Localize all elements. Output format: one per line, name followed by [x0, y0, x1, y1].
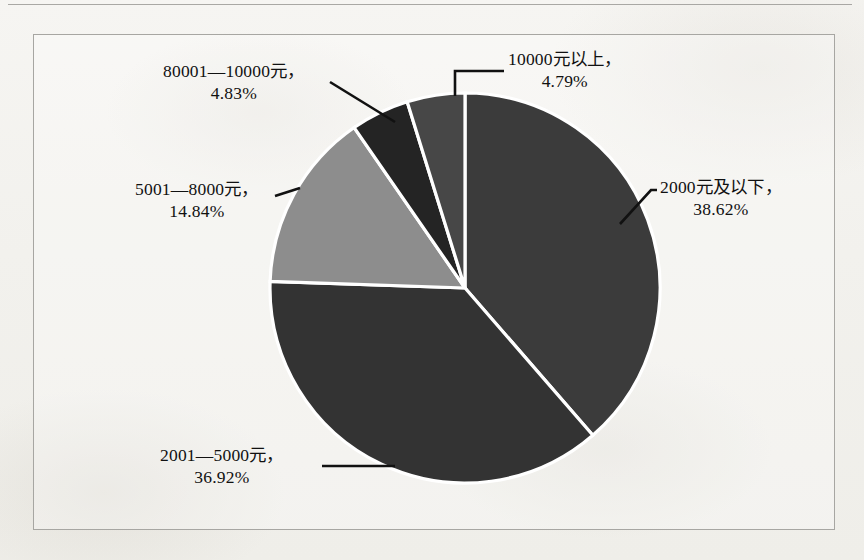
pie-chart — [0, 0, 864, 560]
chart-page: 10000元以上， 4.79% 80001—10000元， 4.83% 5001… — [0, 0, 864, 560]
pie-label-value: 36.92% — [160, 466, 284, 488]
pie-label-value: 4.79% — [508, 70, 622, 92]
pie-label-2000-and-below: 2000元及以下， 38.62% — [660, 176, 782, 221]
pie-label-value: 14.84% — [135, 200, 259, 222]
pie-label-text: 2001—5000元， — [160, 444, 284, 466]
pie-label-value: 4.83% — [163, 82, 305, 104]
pie-label-value: 38.62% — [660, 198, 782, 220]
pie-label-8001-10000: 80001—10000元， 4.83% — [163, 60, 305, 105]
pie-label-text: 5001—8000元， — [135, 178, 259, 200]
pie-label-5001-8000: 5001—8000元， 14.84% — [135, 178, 259, 223]
pie-label-text: 2000元及以下， — [660, 176, 782, 198]
leader-line-8001-10000 — [330, 82, 395, 122]
pie-label-text: 10000元以上， — [508, 48, 622, 70]
pie-label-text: 80001—10000元， — [163, 60, 305, 82]
pie-label-2001-5000: 2001—5000元， 36.92% — [160, 444, 284, 489]
pie-label-10000-and-above: 10000元以上， 4.79% — [508, 48, 622, 93]
